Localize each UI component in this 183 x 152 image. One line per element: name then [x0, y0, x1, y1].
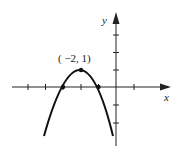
parabola-plot: x y ( −2, 1) — [0, 0, 183, 152]
vertex-point — [79, 68, 83, 72]
root-point-left — [61, 85, 65, 89]
vertex-label: ( −2, 1) — [58, 52, 91, 65]
root-point-right — [96, 85, 100, 89]
y-axis-label: y — [101, 14, 107, 26]
x-axis: x — [12, 84, 171, 104]
y-axis-arrow-icon — [113, 12, 120, 24]
x-axis-arrow-icon — [160, 84, 171, 91]
x-axis-label: x — [163, 91, 169, 103]
parabola-curve — [44, 70, 113, 136]
